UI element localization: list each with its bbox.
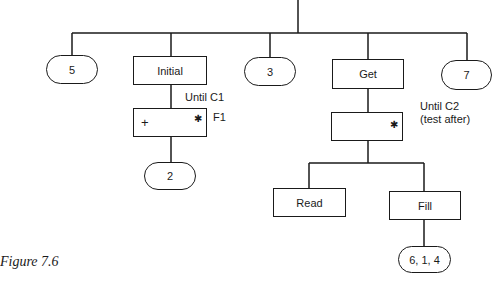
terminator-label: 2	[167, 170, 173, 182]
plus-icon: +	[141, 116, 149, 129]
terminator-2: 2	[144, 162, 196, 190]
process-fill: Fill	[389, 191, 461, 220]
terminator-label: 5	[69, 64, 75, 76]
process-read: Read	[273, 188, 346, 217]
loop-condition-c2: Until C2 (test after)	[420, 100, 470, 126]
terminator-7: 7	[441, 60, 492, 90]
terminator-label: 3	[267, 66, 273, 78]
process-label: Initial	[157, 65, 183, 77]
f1-label: F1	[213, 111, 226, 124]
iteration-box-f1: + ✱	[133, 108, 207, 137]
terminator-3: 3	[244, 57, 296, 86]
process-label: Fill	[418, 200, 432, 212]
condition-line-2: (test after)	[420, 113, 470, 126]
process-initial: Initial	[133, 56, 207, 85]
loop-condition-c1: Until C1	[185, 91, 224, 104]
figure-caption: Figure 7.6	[0, 254, 59, 270]
condition-line-1: Until C2	[420, 100, 470, 113]
iteration-box-c2: ✱	[331, 112, 403, 141]
terminator-label: 6, 1, 4	[409, 254, 440, 266]
terminator-5: 5	[46, 55, 98, 84]
asterisk-icon: ✱	[194, 114, 202, 124]
asterisk-icon: ✱	[390, 120, 398, 130]
process-get: Get	[332, 59, 404, 89]
process-label: Get	[359, 68, 377, 80]
process-label: Read	[296, 197, 322, 209]
terminator-6-1-4: 6, 1, 4	[398, 246, 451, 273]
terminator-label: 7	[463, 69, 469, 81]
